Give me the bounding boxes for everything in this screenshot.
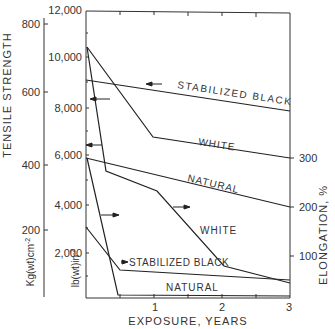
label-natural-tensile: NATURAL: [187, 172, 241, 195]
label-white-elongation: WHITE: [200, 225, 237, 236]
label-stab-black-elongation: STABILIZED BLACK: [129, 257, 229, 268]
arrow-left-icon: [90, 97, 96, 101]
x-axis-label: EXPOSURE, YEARS: [128, 315, 247, 327]
inner-tick-4000: 4,000: [54, 199, 82, 211]
label-white-tensile: WHITE: [198, 136, 236, 153]
outer-tick-800: 800: [22, 18, 40, 30]
elongation-label: ELONGATION, %: [317, 185, 329, 285]
kg-unit-label: Kg(wt)cm-2: [24, 238, 36, 287]
outer-tick-600: 600: [22, 86, 40, 98]
inner-tick-8000: 8,000: [54, 102, 82, 114]
arrow-right-icon: [122, 260, 128, 264]
arrow-right-icon: [113, 213, 119, 217]
arrow-left-icon: [86, 143, 92, 147]
right-tick-100: 100: [299, 250, 317, 262]
x-tick-1: 1: [152, 301, 158, 313]
arrow-right-icon: [184, 205, 190, 209]
plot-frame: [86, 11, 294, 298]
arrow-left-icon: [146, 82, 152, 86]
tensile-strength-label: TENSILE STRENGTH: [1, 32, 13, 157]
inner-tick-6000: 6,000: [54, 149, 82, 161]
outer-tick-400: 400: [22, 159, 40, 171]
inner-tick-10000: 10,000: [48, 51, 82, 63]
chart: 800 600 400 200 TENSILE STRENGTH Kg(wt)c…: [0, 0, 335, 329]
label-natural-elongation: NATURAL: [166, 282, 219, 293]
axis-arrows: [86, 82, 190, 264]
x-tick-3: 3: [286, 301, 292, 313]
right-tick-300: 300: [299, 152, 317, 164]
line-stab-black-elongation: [86, 227, 290, 280]
outer-tick-200: 200: [22, 224, 40, 236]
x-tick-2: 2: [219, 301, 225, 313]
inner-tick-12000: 12,000: [48, 4, 82, 16]
right-tick-200: 200: [299, 201, 317, 213]
